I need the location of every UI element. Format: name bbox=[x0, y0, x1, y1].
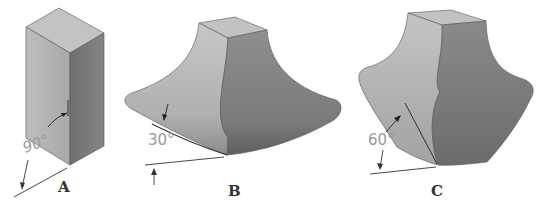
figure-b-label: B bbox=[228, 182, 241, 200]
figure-b-right-face bbox=[220, 30, 341, 155]
figure-b-baseline bbox=[145, 157, 224, 165]
figure-a-label: A bbox=[57, 178, 70, 196]
figure-c-right-face bbox=[432, 21, 533, 165]
figure-a-right-face bbox=[70, 33, 104, 165]
diagram-canvas: 90° A 30° B 60° C bbox=[0, 0, 550, 210]
figure-c: 60° C bbox=[359, 10, 533, 200]
figure-c-label: C bbox=[431, 182, 443, 200]
figure-b-angle-label: 30° bbox=[148, 131, 175, 149]
figure-c-leader-arrow bbox=[377, 163, 383, 170]
figure-b-leader-arrow bbox=[151, 168, 157, 175]
figure-a-leader-arrow bbox=[20, 182, 25, 190]
figure-c-angle-label: 60° bbox=[368, 131, 395, 149]
figure-a: 90° A bbox=[14, 8, 104, 197]
figure-b: 30° B bbox=[125, 17, 341, 200]
